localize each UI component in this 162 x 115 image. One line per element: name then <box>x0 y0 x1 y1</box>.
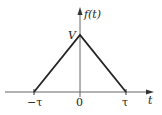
peak-label: V <box>68 29 77 42</box>
x-axis-label: t <box>148 94 153 107</box>
triangular-pulse-diagram: f(t) V −τ 0 τ t <box>0 0 162 115</box>
y-axis-label: f(t) <box>83 8 101 21</box>
y-axis-arrow-icon <box>78 7 83 15</box>
tick-label-neg-tau: −τ <box>27 96 42 109</box>
tick-label-pos-tau: τ <box>122 96 128 109</box>
tick-label-zero: 0 <box>76 96 83 109</box>
